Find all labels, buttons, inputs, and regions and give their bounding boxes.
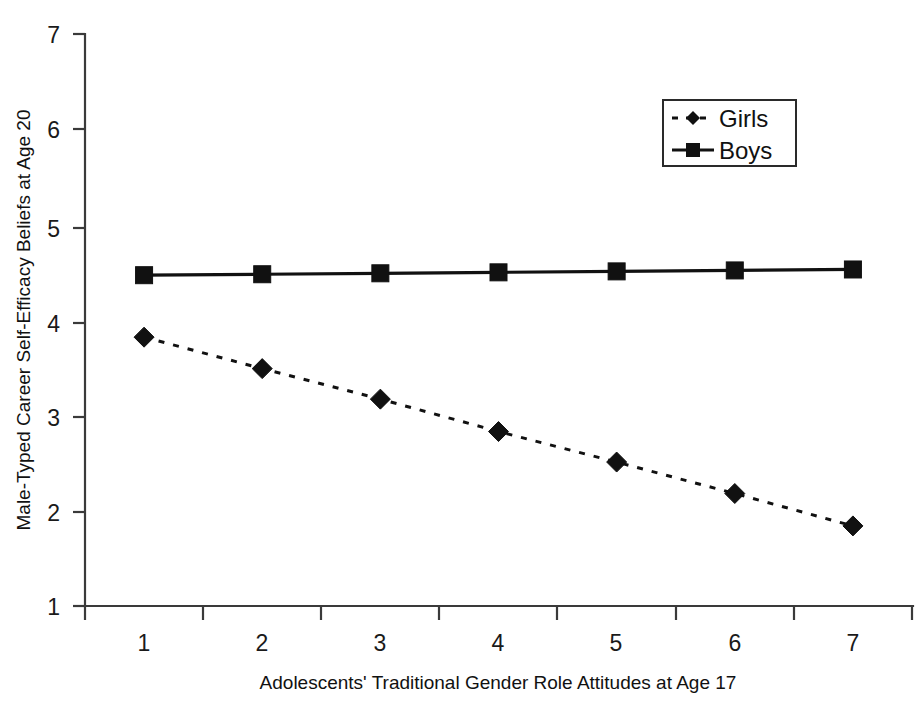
x-axis-title: Adolescents' Traditional Gender Role Att… — [260, 672, 737, 693]
x-tick-label: 1 — [138, 630, 151, 656]
data-point-diamond — [607, 452, 627, 472]
series-layer — [134, 261, 863, 536]
y-tick-label: 7 — [47, 22, 60, 48]
series-boys — [136, 261, 862, 284]
y-axis-ticks — [73, 34, 85, 606]
chart-figure: 7 6 5 4 3 2 1 1 2 3 4 5 6 7 — [0, 0, 917, 710]
x-tick-label: 4 — [492, 630, 505, 656]
x-tick-label: 6 — [729, 630, 742, 656]
y-tick-label: 4 — [47, 311, 60, 337]
x-tick-label: 5 — [610, 630, 623, 656]
data-point-diamond — [725, 484, 745, 504]
data-point-square — [726, 262, 743, 279]
y-tick-label: 6 — [47, 117, 60, 143]
data-point-square — [136, 267, 153, 284]
data-point-square — [844, 261, 861, 278]
x-tick-label: 3 — [374, 630, 387, 656]
x-tick-label: 2 — [256, 630, 269, 656]
line-chart-canvas: 7 6 5 4 3 2 1 1 2 3 4 5 6 7 — [0, 0, 917, 710]
data-point-diamond — [370, 389, 390, 409]
legend-label-girls: Girls — [719, 105, 768, 132]
data-point-diamond — [252, 359, 272, 379]
data-point-diamond — [843, 516, 863, 536]
chart-legend[interactable]: Girls Boys — [663, 100, 796, 166]
y-tick-label: 2 — [47, 500, 60, 526]
data-point-square — [372, 265, 389, 282]
y-tick-label: 3 — [47, 405, 60, 431]
y-tick-label: 5 — [47, 216, 60, 242]
data-point-diamond — [489, 422, 509, 442]
x-tick-label: 7 — [847, 630, 860, 656]
legend-label-boys: Boys — [719, 137, 772, 164]
data-point-square — [608, 263, 625, 280]
series-girls — [134, 327, 863, 536]
x-axis-tick-labels: 1 2 3 4 5 6 7 — [138, 630, 860, 656]
square-marker-icon — [686, 143, 700, 157]
data-point-diamond — [134, 327, 154, 347]
y-tick-label: 1 — [47, 594, 60, 620]
y-axis-title: Male-Typed Career Self-Efficacy Beliefs … — [13, 109, 34, 530]
y-axis-tick-labels: 7 6 5 4 3 2 1 — [47, 22, 60, 620]
data-point-square — [490, 264, 507, 281]
data-point-square — [254, 266, 271, 283]
x-axis-ticks — [85, 606, 912, 620]
